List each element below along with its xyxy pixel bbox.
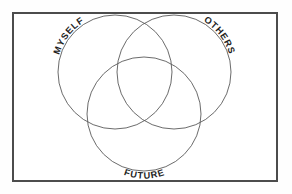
diagram-frame — [13, 13, 277, 181]
venn-diagram-canvas: MYSELF OTHERS FUTURE — [0, 0, 292, 194]
venn-diagram-svg: MYSELF OTHERS FUTURE — [0, 0, 292, 194]
